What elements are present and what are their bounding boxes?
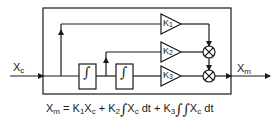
- gain-k2-label: K2: [163, 47, 173, 56]
- gain-k1-label: K1: [163, 19, 173, 28]
- integrator-1-symbol: ∫: [83, 65, 90, 79]
- output-label: Xm: [237, 63, 251, 74]
- input-label: Xc: [13, 62, 24, 73]
- gain-k3-label: K3: [163, 71, 173, 80]
- transfer-equation: Xm = K1Xc + K2∫Xc dt + K3∫∫Xc dt: [46, 100, 213, 114]
- integrator-2-symbol: ∫: [120, 65, 127, 79]
